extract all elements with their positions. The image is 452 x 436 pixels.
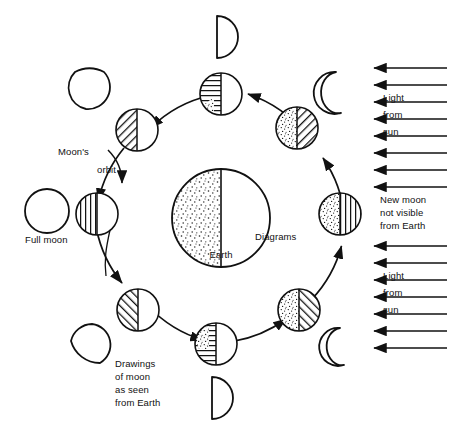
light-from-sun-top-line2: from xyxy=(383,109,402,122)
diagrams-label: Diagrams xyxy=(255,231,296,244)
moon-drawing-crescent-lower-right xyxy=(319,328,344,366)
light-from-sun-top-line3: sun xyxy=(383,126,399,139)
full-moon-pointer xyxy=(105,230,110,276)
drawings-label-line4: from Earth xyxy=(115,397,160,410)
moon-drawing-half-top xyxy=(217,16,238,58)
moon-drawing-half-bottom xyxy=(212,377,233,419)
full-moon-label: Full moon xyxy=(25,234,68,247)
moon-drawing-crescent-upper-right xyxy=(314,72,341,114)
drawings-label-line1: Drawings xyxy=(115,358,155,371)
moon-diagram-waxing-gibbous xyxy=(116,109,158,151)
light-from-sun-bottom-line1: Light xyxy=(383,270,404,283)
moon-drawing-full-left xyxy=(25,189,69,233)
moon-drawing-gibbous-upper-left xyxy=(69,68,110,109)
new-moon-note-line3: from Earth xyxy=(380,220,425,233)
earth-label: Earth xyxy=(191,249,251,262)
drawings-label-line2: of moon xyxy=(115,371,150,384)
moon-diagram-waning-gibbous xyxy=(117,289,159,331)
light-from-sun-bottom-line3: sun xyxy=(383,304,399,317)
drawings-label-line3: as seen xyxy=(115,384,149,397)
moons-orbit-label-line1: Moon's xyxy=(58,146,89,159)
moon-phases-figure: Earth Moon's orbit Full moon Diagrams Dr… xyxy=(0,0,452,436)
moon-diagram-last-quarter xyxy=(195,323,237,365)
moon-diagram-waning-crescent xyxy=(278,289,320,331)
moon-drawing-gibbous-lower-left xyxy=(71,324,110,363)
new-moon-note-line2: not visible xyxy=(380,207,423,220)
moons-orbit-label-line2: orbit xyxy=(97,164,116,177)
new-moon-note-line1: New moon xyxy=(380,194,426,207)
moon-diagram-full-moon xyxy=(76,193,118,235)
moon-diagram-first-quarter xyxy=(200,73,242,115)
light-from-sun-bottom-line2: from xyxy=(383,287,402,300)
light-from-sun-top-line1: Light xyxy=(383,92,404,105)
moon-diagram-new-moon xyxy=(319,193,361,235)
moon-diagram-waxing-crescent xyxy=(276,107,318,149)
